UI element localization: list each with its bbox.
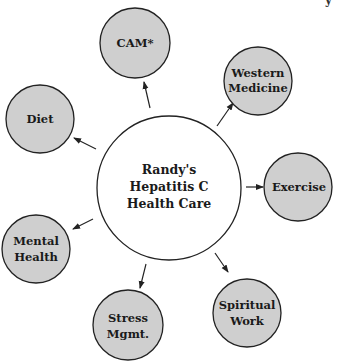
node-diet: Diet	[6, 85, 74, 153]
hepatitis-care-diagram: Randy's Hepatitis C Health Care CAM* Wes…	[0, 0, 342, 362]
center-label-line-3: Health Care	[127, 196, 211, 211]
diet-label: Diet	[27, 112, 55, 126]
western-medicine-label-line-1: Western	[231, 66, 285, 80]
mental-health-label-line-2: Health	[14, 250, 58, 264]
node-spiritual-work: Spiritual Work	[213, 279, 281, 347]
node-exercise: Exercise	[264, 153, 332, 221]
arrow-to-western-medicine	[217, 103, 233, 126]
arrow-to-mental-health	[73, 219, 93, 229]
western-medicine-label-line-2: Medicine	[228, 81, 288, 95]
arrow-to-spiritual-work	[215, 253, 228, 272]
center-node: Randy's Hepatitis C Health Care	[97, 116, 241, 260]
stress-mgmt-label-line-2: Mgmt.	[107, 327, 149, 341]
exercise-label: Exercise	[272, 180, 326, 194]
cropped-text-fragment: y	[325, 0, 332, 7]
arrow-to-diet	[74, 138, 96, 149]
node-stress-mgmt: Stress Mgmt.	[93, 290, 163, 360]
center-label-line-2: Hepatitis C	[130, 179, 209, 194]
stress-mgmt-label-line-1: Stress	[108, 311, 148, 325]
arrow-to-cam	[144, 82, 150, 108]
center-label-line-1: Randy's	[142, 162, 197, 177]
mental-health-label-line-1: Mental	[13, 234, 59, 248]
node-western-medicine: Western Medicine	[224, 47, 292, 115]
arrow-to-stress-mgmt	[140, 264, 146, 288]
spiritual-work-label-line-1: Spiritual	[219, 298, 276, 312]
spiritual-work-label-line-2: Work	[229, 314, 265, 328]
cam-label: CAM*	[117, 36, 154, 50]
node-mental-health: Mental Health	[2, 215, 70, 283]
node-cam: CAM*	[100, 8, 170, 78]
